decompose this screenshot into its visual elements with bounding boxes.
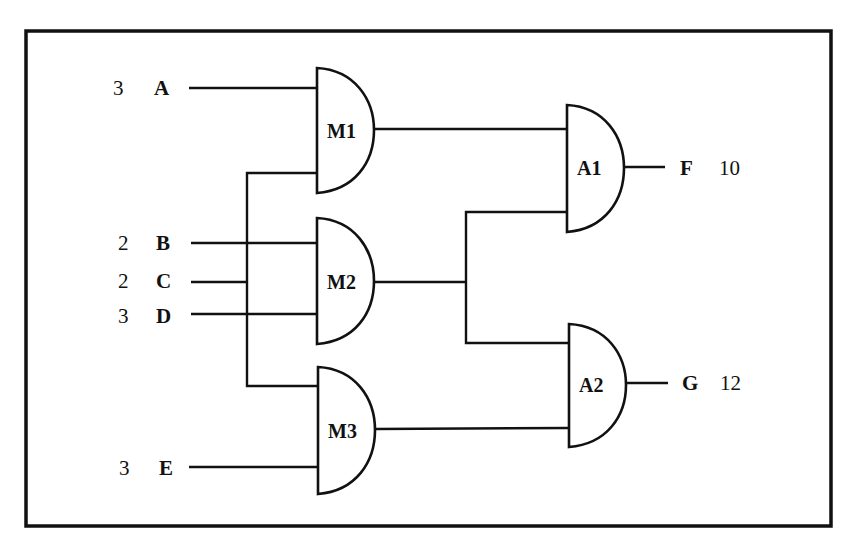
gate-M1: M1 [317,68,374,193]
gate-A2-label: A2 [579,374,603,396]
gate-M3-label: M3 [328,420,357,442]
input-D: 3 D [118,304,171,328]
input-C: 2 C [118,269,171,293]
output-F-name: F [680,156,693,180]
gate-A1-label: A1 [577,157,601,179]
input-C-value: 2 [118,269,129,293]
wire-M3-A2 [375,428,569,429]
gate-M2: M2 [317,218,374,344]
output-G-value: 12 [720,371,741,395]
diagram-frame [26,31,831,526]
input-B-value: 2 [118,231,129,255]
input-B-name: B [156,231,170,255]
output-F: F 10 [680,156,740,180]
gate-M1-label: M1 [327,120,356,142]
input-D-name: D [156,304,171,328]
input-E-name: E [159,456,173,480]
gate-A1: A1 [567,105,624,232]
wire-M2-A1-A2 [466,212,569,343]
wire-C-bus-M1-M3 [247,173,317,386]
input-A: 3 A [113,76,170,100]
input-A-name: A [154,76,170,100]
input-E: 3 E [119,456,173,480]
input-C-name: C [156,269,171,293]
gate-M2-label: M2 [327,271,356,293]
output-G: G 12 [682,371,741,395]
circuit-diagram: 3 A 2 B 2 C 3 D 3 E M1 M2 M3 [0,0,855,557]
output-G-name: G [682,371,698,395]
input-B: 2 B [118,231,170,255]
input-A-value: 3 [113,76,124,100]
gate-M3: M3 [318,367,375,494]
gate-A2: A2 [569,324,626,447]
input-E-value: 3 [119,456,130,480]
input-D-value: 3 [118,304,129,328]
output-F-value: 10 [719,156,740,180]
